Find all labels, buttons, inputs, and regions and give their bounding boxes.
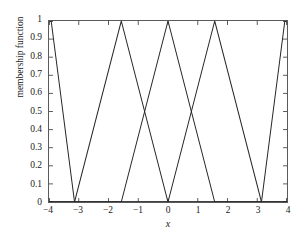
- x-tick-label: −3: [73, 205, 83, 216]
- x-tick-label: −1: [133, 205, 143, 216]
- y-tick-label: 0.3: [30, 143, 42, 153]
- plot-area: [48, 20, 288, 203]
- membership-function-line: [49, 21, 287, 202]
- y-tick-label: 0.7: [30, 70, 42, 80]
- y-tick-label: 1: [37, 15, 42, 25]
- y-tick-label: 0.8: [30, 52, 42, 62]
- x-tick-label: 2: [226, 205, 231, 216]
- chart-figure: membership function 00.10.20.30.40.50.60…: [0, 0, 306, 237]
- x-tick-label: 3: [256, 205, 261, 216]
- membership-function-line: [49, 21, 287, 202]
- x-tick-label: 4: [286, 205, 291, 216]
- x-axis-title: x: [48, 218, 288, 229]
- x-tick-label: 0: [166, 205, 171, 216]
- x-tick-label: −2: [103, 205, 113, 216]
- x-tick-label: −4: [43, 205, 53, 216]
- x-axis-tick-labels: −4−3−2−101234: [48, 205, 288, 219]
- y-tick-label: 0.6: [30, 88, 42, 98]
- y-tick-label: 0.4: [30, 125, 42, 135]
- y-tick-label: 0: [37, 198, 42, 208]
- x-tick-label: 1: [196, 205, 201, 216]
- y-tick-label: 0.9: [30, 34, 42, 44]
- y-tick-label: 0.1: [30, 180, 42, 190]
- membership-function-lines: [49, 21, 287, 202]
- y-axis-tick-labels: 00.10.20.30.40.50.60.70.80.91: [0, 20, 46, 203]
- y-tick-label: 0.5: [30, 107, 42, 117]
- membership-function-line: [49, 21, 287, 202]
- y-tick-label: 0.2: [30, 162, 42, 172]
- membership-function-line: [49, 21, 287, 202]
- membership-function-line: [49, 21, 287, 202]
